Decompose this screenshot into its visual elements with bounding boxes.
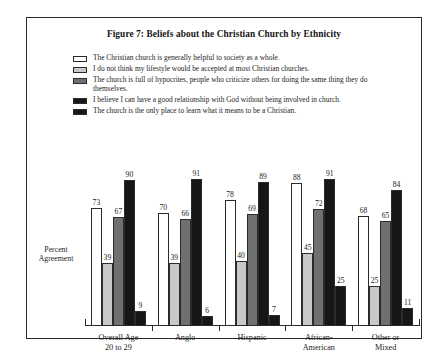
legend-item: I do not think my lifestyle would be acc…	[73, 65, 403, 74]
bar-value-label: 9	[138, 302, 142, 310]
x-axis-labels: Overall Age20 to 29AngloHispanicAfrican-…	[85, 333, 419, 361]
chart-bar	[358, 216, 369, 326]
x-axis-line	[85, 325, 419, 326]
bar-value-label: 84	[393, 181, 401, 189]
x-axis-label-line: 20 to 29	[85, 343, 152, 353]
x-axis-label-line: American	[285, 343, 352, 353]
x-axis-tick	[352, 326, 353, 331]
x-axis-endcap	[85, 319, 86, 326]
bar-slot: 72	[313, 146, 324, 326]
bar-slot: 69	[247, 146, 258, 326]
chart-bar	[91, 208, 102, 326]
bar-slot: 89	[258, 146, 269, 326]
bar-value-label: 88	[293, 174, 301, 182]
x-axis-label: Other orMixed	[352, 333, 419, 354]
y-axis-label-line-1: Percent	[28, 245, 84, 254]
legend-swatch-icon	[73, 109, 87, 115]
legend-item: The church is full of hypocrites, people…	[73, 76, 403, 93]
bar-slot: 73	[91, 146, 102, 326]
bar-slot: 11	[402, 146, 413, 326]
bar-group: 733967909	[91, 146, 146, 326]
legend-item-label: The church is the only place to learn wh…	[93, 107, 296, 116]
x-axis-label: Overall Age20 to 29	[85, 333, 152, 354]
bar-value-label: 65	[382, 212, 390, 220]
bar-value-label: 91	[326, 170, 334, 178]
chart-bar	[191, 179, 202, 326]
chart-bar	[247, 214, 258, 326]
bar-group: 8845729125	[291, 146, 346, 326]
bar-value-label: 6	[205, 307, 209, 315]
chart-bar	[258, 182, 269, 326]
bar-value-label: 78	[226, 191, 234, 199]
bar-value-label: 11	[404, 299, 411, 307]
bar-slot: 39	[102, 146, 113, 326]
chart-bar	[102, 263, 113, 326]
x-axis-label: Anglo	[152, 333, 219, 343]
legend-swatch-icon	[73, 67, 87, 73]
figure-title: Figure 7: Beliefs about the Christian Ch…	[27, 29, 421, 39]
legend-item: The church is the only place to learn wh…	[73, 107, 403, 116]
chart-bar	[391, 190, 402, 326]
chart-bar	[169, 263, 180, 326]
y-axis-label: Percent Agreement	[28, 245, 84, 264]
bar-slot: 90	[124, 146, 135, 326]
bar-value-label: 72	[315, 200, 323, 208]
chart-legend: The Christian church is generally helpfu…	[73, 54, 403, 118]
bar-value-label: 66	[181, 210, 189, 218]
legend-swatch-icon	[73, 98, 87, 104]
x-axis-label-line: Other or	[352, 333, 419, 343]
bar-slot: 68	[358, 146, 369, 326]
bar-slot: 84	[391, 146, 402, 326]
legend-item-label: I do not think my lifestyle would be acc…	[93, 65, 309, 74]
bar-value-label: 39	[104, 254, 112, 262]
bar-slot: 6	[202, 146, 213, 326]
x-axis-tick	[285, 326, 286, 331]
bar-slot: 91	[191, 146, 202, 326]
legend-item-label: The Christian church is generally helpfu…	[93, 54, 280, 63]
bar-value-label: 69	[248, 205, 256, 213]
bar-slot: 7	[269, 146, 280, 326]
bar-value-label: 25	[371, 277, 379, 285]
bar-value-label: 89	[259, 173, 267, 181]
bar-slot: 91	[324, 146, 335, 326]
x-axis-endcap	[419, 319, 420, 326]
chart-bar	[402, 308, 413, 326]
legend-swatch-icon	[73, 56, 87, 62]
chart-bar	[302, 253, 313, 326]
x-axis-label-line: Overall Age	[85, 333, 152, 343]
figure-frame: Figure 7: Beliefs about the Christian Ch…	[26, 17, 422, 339]
bar-slot: 25	[335, 146, 346, 326]
chart-bar	[369, 286, 380, 327]
chart-bar	[335, 286, 346, 327]
legend-item: The Christian church is generally helpfu…	[73, 54, 403, 63]
bar-group: 703966916	[158, 146, 213, 326]
x-axis-tick	[219, 326, 220, 331]
chart-bar	[180, 219, 191, 326]
bar-value-label: 40	[237, 252, 245, 260]
x-axis-tick	[152, 326, 153, 331]
bar-value-label: 25	[337, 277, 345, 285]
chart-bar	[291, 183, 302, 326]
x-axis-label: Hispanic	[219, 333, 286, 343]
bar-value-label: 39	[170, 254, 178, 262]
bar-slot: 40	[236, 146, 247, 326]
x-axis-label: African-American	[285, 333, 352, 354]
bar-group: 6825658411	[358, 146, 413, 326]
chart-bar	[313, 209, 324, 326]
bar-value-label: 70	[159, 204, 167, 212]
bar-group: 784069897	[225, 146, 280, 326]
bar-slot: 25	[369, 146, 380, 326]
bar-slot: 65	[380, 146, 391, 326]
legend-item-label: The church is full of hypocrites, people…	[93, 76, 393, 93]
legend-swatch-icon	[73, 78, 87, 84]
bar-slot: 70	[158, 146, 169, 326]
bar-value-label: 68	[360, 207, 368, 215]
chart-bar	[380, 221, 391, 326]
chart-bar	[113, 217, 124, 326]
chart-bar	[158, 213, 169, 326]
chart-bar	[135, 311, 146, 326]
bar-slot: 88	[291, 146, 302, 326]
bar-value-label: 91	[192, 170, 200, 178]
x-axis-label-line: African-	[285, 333, 352, 343]
legend-item: I believe I can have a good relationship…	[73, 96, 403, 105]
